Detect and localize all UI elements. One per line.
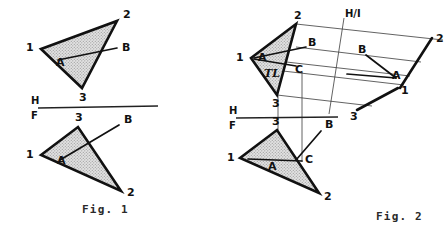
fig1-front-vertex-3-label: 3 <box>75 111 83 124</box>
fig2-front-point-a-label: A <box>268 160 277 173</box>
fig1-top-point-a-label: A <box>56 56 65 69</box>
fig2-front-point-b-label: B <box>325 118 333 131</box>
fig2-aux-point-b-label: B <box>358 43 366 56</box>
fig1-top-point-b-label: B <box>122 41 130 54</box>
fig2-top-vertex-1-label: 1 <box>236 51 244 64</box>
fig2-front-view: 1 2 3 A B C <box>227 115 333 203</box>
fig2-top-point-a-label: A <box>258 51 267 64</box>
fig2-aux-line-1-3 <box>357 88 398 110</box>
technical-drawing: 1 2 3 A B H F 1 2 3 A B <box>0 0 448 241</box>
fig2-fold-label-h1: H/I <box>345 8 361 19</box>
fig1-fold-line-group: H F <box>31 95 158 121</box>
fig2-aux-vertex-3-label: 3 <box>350 110 358 123</box>
fig1-front-vertex-2-label: 2 <box>127 186 135 199</box>
fig1-front-view: 1 2 3 A B <box>26 111 135 199</box>
fig1-caption: Fig. 1 <box>82 203 129 216</box>
fig2-front-point-c-label: C <box>305 153 313 166</box>
fig1-top-triangle-fill <box>41 21 117 88</box>
fig2-top-vertex-3-label: 3 <box>272 97 280 110</box>
fig2-top-point-b-label: B <box>308 36 316 49</box>
fig2-top-view: 1 2 3 A B C TL <box>236 9 316 110</box>
fig2-fold-label-f: F <box>229 120 236 131</box>
fig2-projector-from-2 <box>296 24 443 40</box>
fig2-fold-line <box>236 117 338 118</box>
figure-2-group: H/I 1 2 3 A B C TL <box>227 8 444 223</box>
fig1-fold-line <box>38 106 158 108</box>
fig2-projector-from-3 <box>277 95 372 106</box>
drawing-canvas: 1 2 3 A B H F 1 2 3 A B <box>0 0 448 241</box>
fig2-front-vertex-1-label: 1 <box>227 151 235 164</box>
fig1-front-vertex-1-label: 1 <box>26 148 34 161</box>
fig2-top-vertex-2-label: 2 <box>294 9 302 22</box>
fig2-fold-line-h1 <box>329 18 344 114</box>
fig2-aux-vertex-1-label: 1 <box>401 84 409 97</box>
fig2-aux-line-a-1 <box>347 74 396 78</box>
fig2-true-length-label: TL <box>264 67 280 80</box>
fig1-top-vertex-3-label: 3 <box>79 91 87 104</box>
fig1-fold-label-f: F <box>31 110 38 121</box>
fig1-top-vertex-2-label: 2 <box>123 8 131 21</box>
fig2-auxiliary-view: 2 1 3 B A <box>347 32 444 123</box>
fig2-aux-vertex-2-label: 2 <box>436 32 444 45</box>
fig2-front-vertex-3-label: 3 <box>272 115 280 128</box>
fig2-top-point-c-label: C <box>295 63 303 76</box>
fig1-top-vertex-1-label: 1 <box>26 41 34 54</box>
fig1-front-point-a-label: A <box>57 154 66 167</box>
fig2-aux-point-a-label: A <box>392 69 401 82</box>
fig1-fold-label-h: H <box>31 95 39 106</box>
figure-1-group: 1 2 3 A B H F 1 2 3 A B <box>26 8 158 216</box>
fig2-front-vertex-2-label: 2 <box>324 190 332 203</box>
fig2-fold-label-h: H <box>229 105 237 116</box>
fig1-front-point-b-label: B <box>124 113 132 126</box>
fig2-aux-line-2-1 <box>400 38 432 88</box>
fig2-caption: Fig. 2 <box>376 210 423 223</box>
fig2-fold-line-group: H F <box>229 105 338 131</box>
fig1-top-view: 1 2 3 A B <box>26 8 131 104</box>
